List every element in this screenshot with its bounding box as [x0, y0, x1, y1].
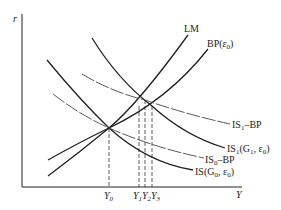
guide-lines	[109, 100, 152, 187]
x-axis-label: Y	[236, 189, 243, 200]
is1-curve	[92, 38, 225, 148]
tick-y3: Y3	[151, 190, 161, 203]
is1-bp-curve	[82, 74, 230, 124]
is1-bp-label: IS1–BP	[232, 119, 262, 132]
is0-bp-curve	[53, 94, 204, 158]
curves	[47, 35, 230, 176]
tick-y1: Y1	[133, 190, 142, 203]
x-tick-labels: Y0 Y1 Y2 Y3	[104, 190, 161, 203]
tick-y0: Y0	[104, 190, 114, 203]
curve-labels: LM BP(ε0) IS1–BP IS1(G1, ε0) IS0–BP IS(G…	[184, 23, 270, 179]
is-lm-bp-diagram: r Y LM BP(ε0) IS1–BP IS1(G1, ε0)	[0, 0, 281, 210]
bp-label: BP(ε0)	[207, 38, 233, 51]
is-label: IS(G0, ε0)	[195, 166, 234, 179]
lm-label: LM	[184, 23, 199, 34]
y-axis-label: r	[13, 13, 17, 24]
